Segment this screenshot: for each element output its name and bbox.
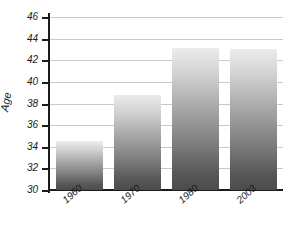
gridline (50, 39, 283, 40)
y-tick-mark (42, 168, 49, 170)
y-tick-mark (42, 82, 49, 84)
y-tick-mark (42, 147, 49, 149)
y-tick-mark (42, 60, 49, 62)
plot-area (50, 17, 283, 190)
y-tick-label: 46 (0, 12, 38, 22)
y-tick-label: 44 (0, 34, 38, 44)
y-tick-label: 38 (0, 99, 38, 109)
y-tick-label: 32 (0, 163, 38, 173)
bar (172, 48, 219, 190)
y-tick-label: 36 (0, 120, 38, 130)
bar-chart: Age 303234363840424446 1960197019802003 (0, 0, 288, 237)
y-tick-mark (42, 104, 49, 106)
y-tick-label: 40 (0, 77, 38, 87)
y-tick-mark (42, 190, 49, 192)
bar (230, 49, 277, 190)
y-tick-mark (42, 125, 49, 127)
y-tick-mark (42, 39, 49, 41)
y-tick-label: 42 (0, 55, 38, 65)
y-tick-label: 34 (0, 142, 38, 152)
gridline (50, 17, 283, 18)
y-tick-mark (42, 17, 49, 19)
bar (114, 95, 161, 190)
y-tick-label: 30 (0, 185, 38, 195)
bar (56, 141, 103, 190)
